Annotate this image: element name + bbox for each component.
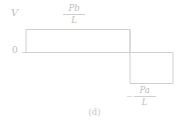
positive-shear-block — [26, 30, 130, 53]
positive-shear-value-label: Pb L — [63, 4, 85, 25]
figure-caption: (d) — [0, 108, 189, 117]
negative-shear-numerator: Pa — [134, 86, 156, 95]
positive-shear-denominator: L — [63, 15, 85, 24]
negative-shear-fraction: Pa L — [134, 86, 156, 107]
shear-diagram-figure: V 0 Pb L − Pa L (d) — [0, 0, 189, 125]
y-axis-label: V — [11, 8, 18, 18]
origin-label: 0 — [12, 46, 18, 55]
negative-shear-value-label: − Pa L — [126, 86, 156, 107]
positive-shear-numerator: Pb — [63, 4, 85, 13]
negative-shear-block — [130, 53, 173, 84]
minus-sign: − — [126, 91, 133, 101]
negative-shear-denominator: L — [134, 97, 156, 106]
